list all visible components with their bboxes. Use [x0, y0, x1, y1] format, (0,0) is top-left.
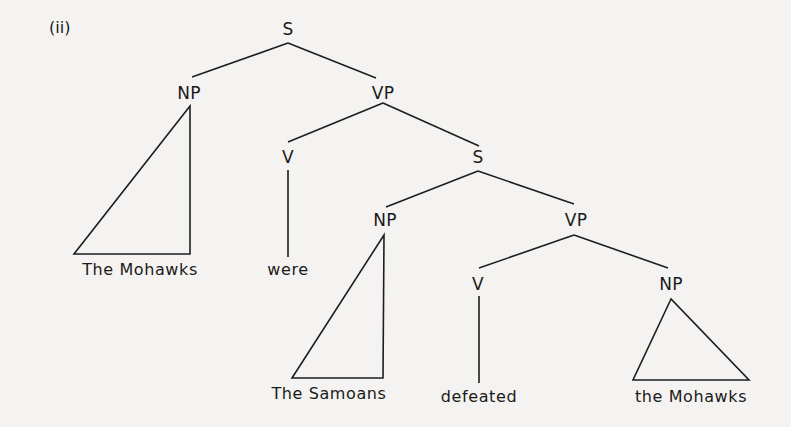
- figure-label: (ii): [49, 20, 70, 36]
- edge-vp-s: [383, 103, 479, 146]
- node-v-defeated: V: [472, 276, 484, 293]
- edge-inner-s-np: [386, 171, 478, 207]
- node-s-embedded: S: [473, 149, 484, 166]
- node-v-were: V: [282, 149, 294, 166]
- node-vp-main: VP: [372, 85, 394, 102]
- edge-inner-s-vp: [478, 171, 574, 204]
- leaf-the-samoans: The Samoans: [271, 386, 386, 402]
- edge-s-vp: [288, 43, 376, 78]
- np-triangle-the-mohawks: [74, 106, 190, 254]
- node-np-object: NP: [659, 276, 682, 293]
- leaf-the-mohawks-object: the Mohawks: [635, 389, 747, 405]
- leaf-the-mohawks: The Mohawks: [82, 262, 198, 278]
- np-triangle-the-mohawks-object: [633, 299, 749, 380]
- np-triangle-the-samoans: [292, 235, 384, 378]
- edge-inner-vp-v: [479, 235, 574, 268]
- edge-s-np: [192, 43, 288, 77]
- leaf-were: were: [267, 262, 308, 278]
- syntax-tree-figure: (ii) S NP VP The Mohawks V S were NP VP …: [0, 0, 791, 427]
- node-vp-embedded: VP: [565, 212, 587, 229]
- node-s-root: S: [283, 21, 294, 38]
- edge-inner-vp-np: [574, 235, 668, 268]
- edge-vp-v: [288, 103, 383, 142]
- node-np-embedded: NP: [373, 212, 396, 229]
- node-np-subject: NP: [177, 85, 200, 102]
- leaf-defeated: defeated: [441, 389, 517, 405]
